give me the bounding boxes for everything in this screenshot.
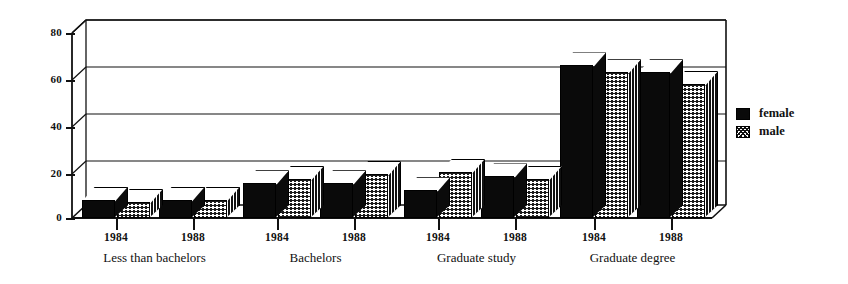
bar-front-face — [481, 176, 514, 218]
y-tick-mark-20 — [66, 174, 75, 176]
x-tick-0 — [116, 218, 118, 230]
bar-front-face — [637, 72, 670, 218]
y-tick-mark-80 — [66, 33, 75, 35]
legend-label-female: female — [759, 106, 794, 121]
x-tick-1 — [193, 218, 195, 230]
y-tick-mark-0 — [66, 218, 75, 220]
legend-label-male: male — [759, 124, 785, 139]
y-tick-label-40: 40 — [32, 120, 62, 132]
x-year-label-1: 1988 — [163, 231, 223, 243]
bar-female-3 — [320, 170, 366, 218]
bar-female-2 — [243, 170, 289, 218]
y-tick-label-80: 80 — [32, 26, 62, 38]
y-tick-label-60: 60 — [32, 73, 62, 85]
x-tick-2 — [277, 218, 279, 230]
legend-swatch-female-icon — [736, 108, 750, 120]
y-tick-mark-40 — [66, 127, 75, 129]
bar-female-1 — [159, 187, 205, 219]
x-year-label-4: 1984 — [408, 231, 468, 243]
bar-front-face — [159, 200, 192, 219]
bar-side-face — [669, 59, 683, 218]
y-tick-label-0: 0 — [32, 211, 62, 223]
x-tick-3 — [354, 218, 356, 230]
bar-front-face — [82, 200, 115, 219]
bar-female-4 — [404, 177, 450, 218]
x-year-label-2: 1984 — [247, 231, 307, 243]
bar-female-0 — [82, 187, 128, 219]
x-tick-4 — [438, 218, 440, 230]
legend-item-female[interactable]: female — [736, 106, 794, 121]
x-year-label-3: 1988 — [324, 231, 384, 243]
bar-side-face — [592, 52, 606, 218]
bar-side-face — [704, 71, 718, 218]
bar-female-5 — [481, 163, 527, 218]
legend-item-male[interactable]: male — [736, 124, 794, 139]
x-tick-5 — [515, 218, 517, 230]
x-tick-6 — [594, 218, 596, 230]
x-group-label-2: Graduate study — [387, 250, 567, 266]
bar-side-face — [627, 59, 641, 218]
chart-legend: female male — [736, 106, 794, 142]
bar-front-face — [243, 183, 276, 218]
legend-swatch-male-icon — [736, 126, 750, 138]
x-group-label-1: Bachelors — [226, 250, 406, 266]
bar-front-face — [404, 190, 437, 218]
x-year-label-0: 1984 — [86, 231, 146, 243]
bar-female-6 — [560, 52, 606, 218]
x-year-label-6: 1984 — [564, 231, 624, 243]
y-tick-label-20: 20 — [32, 167, 62, 179]
y-tick-mark-60 — [66, 80, 75, 82]
x-year-label-7: 1988 — [641, 231, 701, 243]
bar-chart: 80 60 40 20 0 19841988198419881984198819… — [0, 0, 848, 284]
x-group-label-0: Less than bachelors — [65, 250, 245, 266]
bar-front-face — [320, 183, 353, 218]
bar-female-7 — [637, 59, 683, 218]
x-group-label-3: Graduate degree — [543, 250, 723, 266]
x-year-label-5: 1988 — [485, 231, 545, 243]
bar-front-face — [560, 65, 593, 218]
x-tick-7 — [671, 218, 673, 230]
